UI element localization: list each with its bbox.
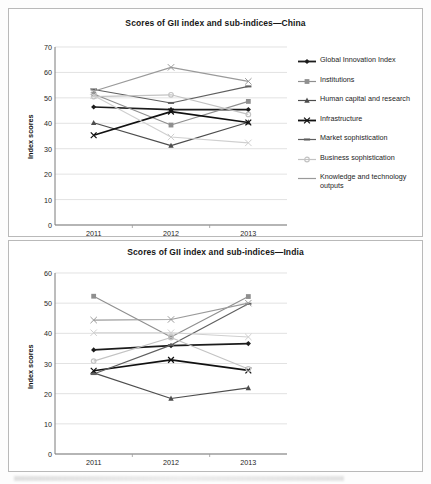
chart-title-india: Scores of GII index and sub-indices—Indi… (9, 247, 422, 257)
x-tick-label: 2011 (55, 229, 132, 238)
legend-item-human-capital-and-research[interactable]: Human capital and research (297, 95, 421, 105)
x-tick-label: 2012 (132, 229, 209, 238)
legend-marker-icon (297, 96, 317, 105)
y-tick-label: 30 (30, 144, 52, 153)
legend-marker-icon (297, 57, 317, 66)
chart-title-china: Scores of GII index and sub-indices—Chin… (9, 18, 422, 28)
figure-page: Scores of GII index and sub-indices—Chin… (0, 0, 431, 484)
legend-marker-icon (297, 77, 317, 86)
x-tick-label: 2013 (210, 229, 287, 238)
legend-item-knowledge-and-technology-outputs[interactable]: Knowledge and technology outputs (297, 173, 421, 190)
y-tick-label: 30 (30, 359, 52, 368)
plot-area-china (55, 47, 287, 225)
legend-label: Global Innovation Index (317, 56, 396, 65)
page-footer-artifact (14, 476, 344, 481)
series-infrastructure (91, 357, 251, 374)
y-tick-label: 60 (30, 269, 52, 278)
x-tick-label: 2013 (210, 458, 287, 467)
x-axis-ticks-china: 201120122013 (55, 229, 287, 238)
series-business-sophistication (91, 93, 250, 117)
plot-area-india (55, 273, 287, 454)
y-tick-label: 20 (30, 170, 52, 179)
legend-label: Knowledge and technology outputs (317, 173, 421, 190)
legend-item-global-innovation-index[interactable]: Global Innovation Index (297, 56, 421, 66)
y-axis-ticks-china: 706050403020100 (28, 47, 52, 225)
legend-item-business-sophistication[interactable]: Business sophistication (297, 154, 421, 164)
series-human-capital-and-research (91, 370, 251, 401)
chart-panel-india: Scores of GII index and sub-indices—Indi… (8, 240, 423, 472)
series-global-innovation-index (91, 341, 251, 353)
x-tick-label: 2011 (55, 458, 132, 467)
chart-panel-china: Scores of GII index and sub-indices—Chin… (8, 8, 423, 237)
legend-item-infrastructure[interactable]: Infrastructure (297, 115, 421, 125)
series-knowledge-and-technology-outputs (90, 64, 251, 94)
legend-label: Human capital and research (317, 95, 410, 104)
legend-label: Infrastructure (317, 115, 362, 124)
legend-label: Market sophistication (317, 134, 388, 143)
y-axis-ticks-india: 6050403020100 (28, 273, 52, 454)
y-tick-label: 60 (30, 68, 52, 77)
y-tick-label: 0 (30, 450, 52, 459)
legend-label: Business sophistication (317, 154, 395, 163)
y-tick-label: 10 (30, 419, 52, 428)
y-tick-label: 0 (30, 221, 52, 230)
y-tick-label: 50 (30, 299, 52, 308)
x-axis-ticks-india: 201120122013 (55, 458, 287, 467)
y-tick-label: 20 (30, 389, 52, 398)
legend-china: Global Innovation IndexInstitutionsHuman… (297, 56, 421, 200)
y-tick-label: 50 (30, 93, 52, 102)
legend-marker-icon (297, 174, 317, 183)
legend-item-institutions[interactable]: Institutions (297, 76, 421, 86)
legend-item-market-sophistication[interactable]: Market sophistication (297, 134, 421, 144)
legend-label: Institutions (317, 76, 354, 85)
y-tick-label: 40 (30, 329, 52, 338)
y-tick-label: 40 (30, 119, 52, 128)
y-tick-label: 10 (30, 195, 52, 204)
legend-marker-icon (297, 116, 317, 125)
legend-marker-icon (297, 155, 317, 164)
x-tick-label: 2012 (132, 458, 209, 467)
legend-marker-icon (297, 135, 317, 144)
y-tick-label: 70 (30, 43, 52, 52)
